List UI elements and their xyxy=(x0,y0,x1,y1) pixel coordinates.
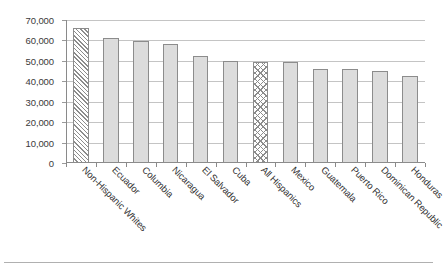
x-axis-category-label: Cuba xyxy=(230,164,254,188)
y-axis-tick-label: 40,000 xyxy=(26,76,54,87)
y-axis-tick-label: 20,000 xyxy=(26,117,54,128)
y-axis-tick-label: 50,000 xyxy=(26,55,54,66)
x-axis-tick-mark xyxy=(425,163,426,167)
bar xyxy=(163,44,179,164)
bar xyxy=(223,61,239,163)
bar xyxy=(73,28,89,163)
bottom-divider xyxy=(4,262,433,263)
bar xyxy=(372,71,388,163)
x-axis-tick-mark xyxy=(186,163,187,167)
x-axis-tick-mark xyxy=(66,163,67,167)
plot-area xyxy=(66,20,425,163)
x-axis-tick-mark xyxy=(365,163,366,167)
x-axis-tick-mark xyxy=(126,163,127,167)
bar xyxy=(342,69,358,163)
x-axis-category-label: Mexico xyxy=(289,164,318,193)
x-axis-tick-mark xyxy=(305,163,306,167)
x-axis-category-labels: Non-Hispanic WhitesEcuadorColumbiaNicara… xyxy=(0,168,437,258)
bar xyxy=(133,41,149,163)
bar xyxy=(402,76,418,163)
bars-group xyxy=(66,20,425,163)
bar xyxy=(283,62,299,163)
y-axis-tick-label: 10,000 xyxy=(26,137,54,148)
x-axis-tick-mark xyxy=(246,163,247,167)
x-axis-tick-mark xyxy=(216,163,217,167)
bar xyxy=(103,38,119,163)
y-axis-tick-label: 60,000 xyxy=(26,35,54,46)
x-axis-tick-mark xyxy=(96,163,97,167)
y-axis-tick-label: 30,000 xyxy=(26,96,54,107)
bar xyxy=(193,56,209,163)
y-axis: 70,00060,00050,00040,00030,00020,00010,0… xyxy=(0,0,64,170)
x-axis-tick-mark xyxy=(395,163,396,167)
x-axis-tick-mark xyxy=(156,163,157,167)
x-axis-tick-mark xyxy=(335,163,336,167)
bar xyxy=(253,62,269,163)
y-axis-tick-label: 0 xyxy=(49,158,54,169)
bar xyxy=(313,69,329,163)
x-axis-tick-mark xyxy=(275,163,276,167)
x-axis-category-label: Columbia xyxy=(140,164,176,200)
y-axis-tick-label: 70,000 xyxy=(26,15,54,26)
